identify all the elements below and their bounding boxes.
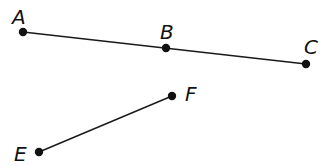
label-c: C — [304, 35, 318, 59]
point-a — [19, 28, 27, 36]
label-e: E — [14, 142, 27, 166]
point-b — [162, 44, 170, 52]
segment-ef — [39, 96, 172, 152]
geometry-diagram: A B C F E — [0, 0, 322, 166]
point-c — [302, 60, 310, 68]
label-a: A — [10, 5, 26, 29]
label-b: B — [160, 20, 174, 44]
point-e — [35, 148, 43, 156]
label-f: F — [185, 82, 197, 106]
point-f — [168, 92, 176, 100]
